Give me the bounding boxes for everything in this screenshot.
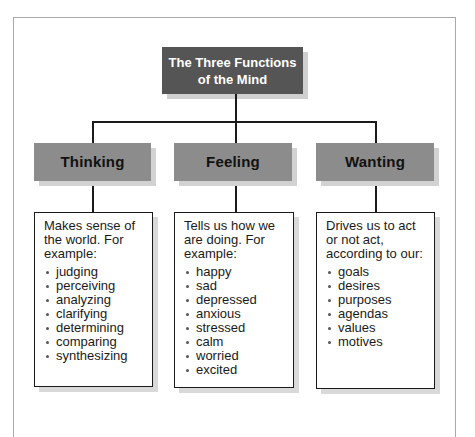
connector-feeling-up xyxy=(235,121,237,143)
thinking-box: Makes sense of the world. For example: j… xyxy=(34,212,153,387)
list-item: values xyxy=(326,321,426,335)
list-item: determining xyxy=(44,321,144,335)
list-item: perceiving xyxy=(44,279,144,293)
list-item: agendas xyxy=(326,307,426,321)
list-item: anxious xyxy=(184,307,285,321)
list-item: analyzing xyxy=(44,293,144,307)
list-item: synthesizing xyxy=(44,349,144,363)
connector-horizontal xyxy=(92,121,376,123)
feeling-list: happy sad depressed anxious stressed cal… xyxy=(184,265,285,377)
thinking-list: judging perceiving analyzing clarifying … xyxy=(44,265,144,363)
feeling-box: Tells us how we are doing. For example: … xyxy=(174,212,294,388)
list-item: stressed xyxy=(184,321,285,335)
wanting-description: Drives us to act or not act, according t… xyxy=(326,219,426,261)
list-item: goals xyxy=(326,265,426,279)
list-item: comparing xyxy=(44,335,144,349)
header-wanting: Wanting xyxy=(316,143,434,181)
header-thinking: Thinking xyxy=(34,143,151,181)
list-item: purposes xyxy=(326,293,426,307)
list-item: motives xyxy=(326,335,426,349)
header-thinking-label: Thinking xyxy=(60,153,124,170)
connector-thinking-up xyxy=(92,121,94,143)
connector-thinking-down xyxy=(92,181,94,212)
header-feeling: Feeling xyxy=(174,143,292,181)
title-line-1: The Three Functions xyxy=(162,54,303,71)
connector-title-down xyxy=(235,94,237,122)
wanting-box: Drives us to act or not act, according t… xyxy=(316,212,435,389)
list-item: depressed xyxy=(184,293,285,307)
title-line-2: of the Mind xyxy=(162,71,303,88)
title-box: The Three Functions of the Mind xyxy=(162,47,303,94)
header-wanting-label: Wanting xyxy=(345,153,405,170)
connector-wanting-down xyxy=(375,181,377,212)
list-item: judging xyxy=(44,265,144,279)
list-item: clarifying xyxy=(44,307,144,321)
thinking-description: Makes sense of the world. For example: xyxy=(44,219,144,261)
list-item: excited xyxy=(184,363,285,377)
feeling-description: Tells us how we are doing. For example: xyxy=(184,219,285,261)
list-item: worried xyxy=(184,349,285,363)
list-item: sad xyxy=(184,279,285,293)
list-item: calm xyxy=(184,335,285,349)
list-item: happy xyxy=(184,265,285,279)
wanting-list: goals desires purposes agendas values mo… xyxy=(326,265,426,349)
connector-wanting-up xyxy=(375,121,377,143)
header-feeling-label: Feeling xyxy=(206,153,260,170)
list-item: desires xyxy=(326,279,426,293)
connector-feeling-down xyxy=(235,181,237,212)
